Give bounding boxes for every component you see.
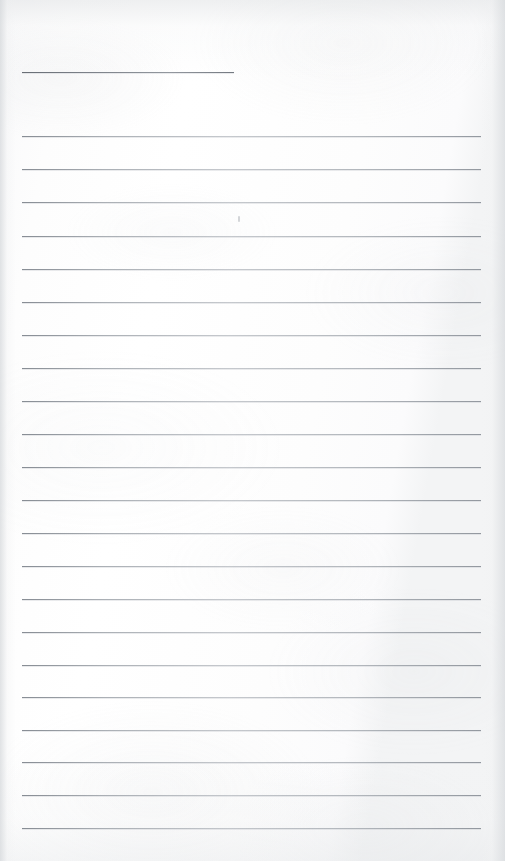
ruled-line: [22, 500, 481, 501]
ruled-line: [22, 533, 481, 534]
ruled-line: [22, 434, 481, 435]
ruled-line: [22, 368, 481, 369]
ruled-line: [22, 828, 481, 829]
ruled-line: [22, 236, 481, 237]
ruled-line: [22, 762, 481, 763]
header-rule: [22, 72, 234, 73]
ruled-line: [22, 632, 481, 633]
ruled-line: [22, 467, 481, 468]
ruled-line: [22, 697, 481, 698]
ruled-line: [22, 136, 481, 137]
ruled-line: [22, 730, 481, 731]
ruled-line: [22, 335, 481, 336]
ruled-line: [22, 795, 481, 796]
ruled-line: [22, 269, 481, 270]
scan-speck: [238, 216, 240, 222]
scanned-page: [0, 0, 505, 861]
ruled-line: [22, 202, 481, 203]
ruled-line: [22, 665, 481, 666]
page-left-edge-shadow: [0, 0, 16, 861]
ruled-line: [22, 566, 481, 567]
ruled-line: [22, 599, 481, 600]
ruled-line: [22, 401, 481, 402]
page-right-edge-shadow: [481, 0, 505, 861]
ruled-line: [22, 169, 481, 170]
ruled-line: [22, 302, 481, 303]
